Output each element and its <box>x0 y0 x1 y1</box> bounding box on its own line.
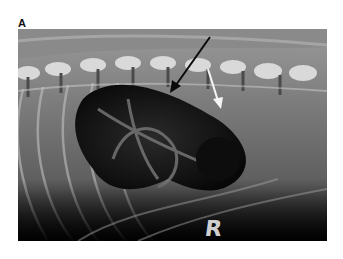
panel-label: A <box>18 17 26 29</box>
radiograph-image <box>18 29 327 241</box>
side-marker-r: R <box>203 216 223 241</box>
